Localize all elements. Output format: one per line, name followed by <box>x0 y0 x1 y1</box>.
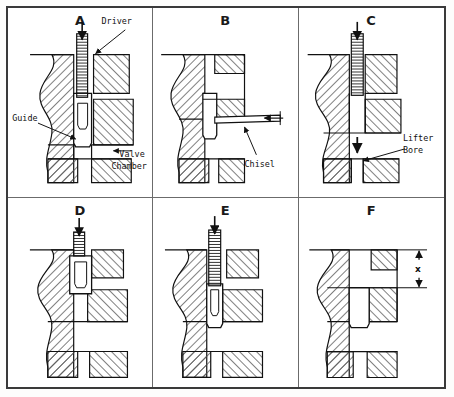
panel-a-valve-chamber-label-1: Valve <box>119 149 144 159</box>
panel-a-valve-chamber-label-2: Chamber <box>111 161 147 171</box>
panel-d-drawing <box>8 198 152 388</box>
panel-c-lifter-bore-label-1: Lifter <box>403 133 433 143</box>
panel-b[interactable]: B Chisel <box>153 8 298 198</box>
panel-d[interactable]: D <box>8 198 153 388</box>
panel-c[interactable]: C Lif <box>299 8 444 198</box>
panel-grid: A <box>8 8 444 387</box>
valve-guide-figure: A <box>0 0 454 397</box>
panel-b-drawing: Chisel <box>153 8 297 197</box>
panel-a-drawing: Driver Guide Valve Chamber <box>8 8 152 197</box>
panel-f[interactable]: F x <box>299 198 444 388</box>
panel-c-lifter-bore-label-2: Bore <box>403 145 423 155</box>
panel-a-driver-label: Driver <box>101 16 131 26</box>
panel-e[interactable]: E <box>153 198 298 388</box>
panel-f-dimension-x-label: x <box>415 263 421 273</box>
panel-b-chisel-label: Chisel <box>245 159 275 169</box>
panel-f-drawing: x <box>299 198 444 388</box>
panel-e-drawing <box>153 198 297 388</box>
panel-c-drawing: Lifter Bore <box>299 8 444 197</box>
panel-a[interactable]: A <box>8 8 153 198</box>
panel-a-guide-label: Guide <box>12 113 37 123</box>
